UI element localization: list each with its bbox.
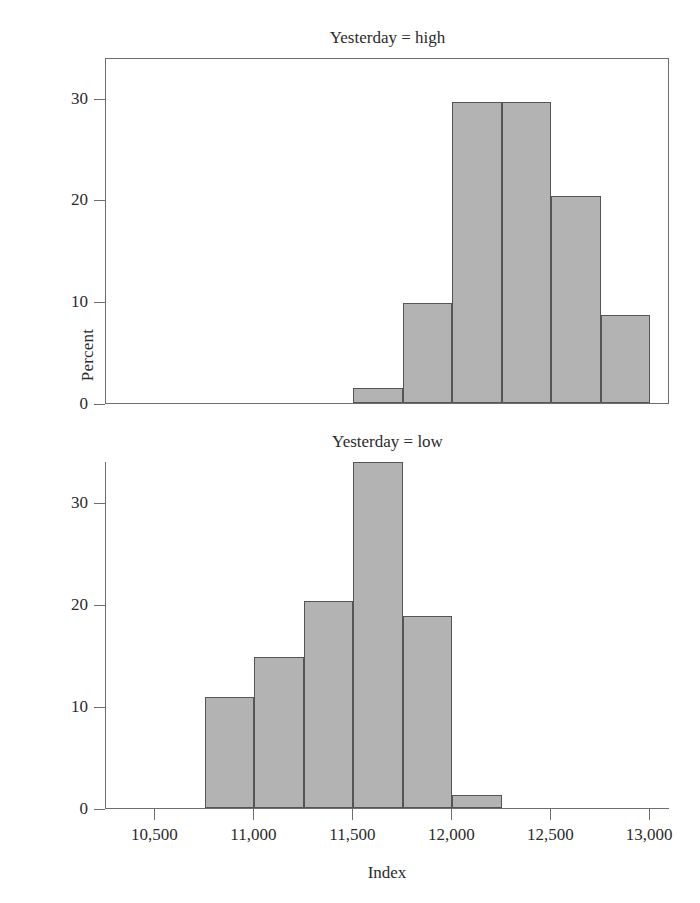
x-tick-mark	[649, 809, 650, 820]
x-tick-mark	[253, 809, 254, 820]
plot-area	[105, 462, 669, 809]
panel-yesterday-low: Yesterday = low 0102030 10,50011,00011,5…	[0, 0, 700, 903]
y-tick-label: 20	[42, 596, 88, 613]
x-axis-label: Index	[105, 863, 669, 883]
x-tick-label: 12,000	[406, 826, 496, 843]
bar	[403, 616, 452, 808]
y-tick-label: 10	[42, 698, 88, 715]
bar	[304, 601, 353, 808]
x-tick-mark	[451, 809, 452, 820]
bar	[452, 795, 501, 808]
y-tick-mark	[94, 707, 105, 708]
x-tick-label: 11,000	[208, 826, 298, 843]
y-tick-label: 0	[42, 800, 88, 817]
x-tick-label: 10,500	[109, 826, 199, 843]
bar	[205, 697, 254, 808]
y-tick-mark	[94, 605, 105, 606]
bar	[254, 657, 303, 808]
bar	[353, 462, 402, 808]
y-tick-mark	[94, 503, 105, 504]
y-tick-label: 30	[42, 494, 88, 511]
y-tick-mark	[94, 809, 105, 810]
x-tick-label: 11,500	[307, 826, 397, 843]
bar-series	[106, 462, 669, 808]
panel-title: Yesterday = low	[105, 432, 670, 452]
histogram-figure: Percent Yesterday = high 0102030 Yesterd…	[0, 0, 700, 903]
x-tick-label: 13,000	[604, 826, 694, 843]
x-tick-mark	[352, 809, 353, 820]
x-tick-label: 12,500	[505, 826, 595, 843]
x-tick-mark	[550, 809, 551, 820]
x-tick-mark	[154, 809, 155, 820]
